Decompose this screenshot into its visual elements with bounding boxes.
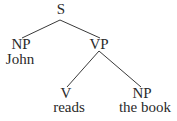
edge-vp-np bbox=[99, 51, 141, 87]
node-s-label: S bbox=[57, 1, 65, 17]
node-vp-label: VP bbox=[89, 36, 108, 52]
word-reads: reads bbox=[53, 99, 85, 115]
edge-vp-v bbox=[67, 51, 99, 87]
syntax-tree: S NP John VP V reads NP the book bbox=[0, 0, 177, 121]
word-john: John bbox=[6, 51, 35, 67]
node-np-subject-label: NP bbox=[11, 36, 30, 52]
word-the-book: the book bbox=[119, 99, 172, 115]
